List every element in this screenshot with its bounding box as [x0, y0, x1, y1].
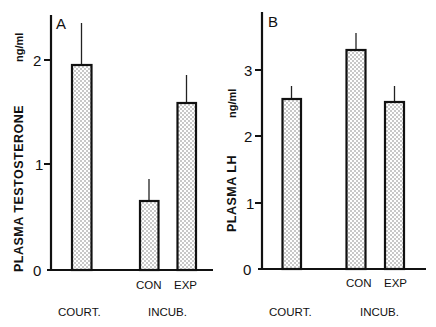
panel-b-y-axis-label: PLASMA LH: [225, 155, 239, 232]
panel-a-letter: A: [56, 15, 66, 32]
panel-b-tick-label-0: 0: [243, 261, 251, 278]
panel-b-y-axis-unit: ng/ml: [226, 89, 238, 118]
panel-a-label-con: CON: [136, 279, 162, 291]
panel-b-bar-court: [283, 99, 302, 269]
panel-a-tick-label-2: 2: [33, 52, 41, 69]
panel-a-bar-exp: [178, 103, 197, 270]
panel-b-label-exp: EXP: [384, 277, 407, 289]
panel-a-tick-label-1: 1: [35, 156, 43, 173]
panel-b-tick-label-3: 3: [244, 62, 252, 79]
panel-a-tick-label-0: 0: [33, 262, 41, 279]
panel-b-bar-exp: [385, 102, 404, 269]
panel-b-group-court: COURT.: [269, 306, 312, 318]
panel-a-group-incub: INCUB.: [148, 306, 187, 318]
panel-b-tick-label-1: 1: [246, 195, 254, 212]
panel-b-tick-label-2: 2: [244, 128, 252, 145]
figure: PLASMA TESTOSTERONE ng/ml 0 1 2 A CON EX…: [0, 0, 436, 327]
panel-b: PLASMA LH ng/ml 0 1 2 3 B CON EXP COURT.…: [225, 12, 426, 318]
panel-a-group-court: COURT.: [58, 306, 101, 318]
panel-b-letter: B: [268, 13, 278, 30]
panel-a: PLASMA TESTOSTERONE ng/ml 0 1 2 A CON EX…: [12, 15, 213, 318]
panel-b-bar-con: [347, 50, 366, 269]
panel-b-group-incub: INCUB.: [360, 306, 399, 318]
panel-b-label-con: CON: [346, 277, 372, 289]
panel-a-y-axis-label: PLASMA TESTOSTERONE: [12, 105, 26, 272]
panel-a-bar-con: [140, 201, 159, 270]
panel-a-label-exp: EXP: [174, 279, 197, 291]
panel-a-bar-court: [72, 65, 92, 270]
panel-a-y-axis-unit: ng/ml: [13, 33, 25, 62]
